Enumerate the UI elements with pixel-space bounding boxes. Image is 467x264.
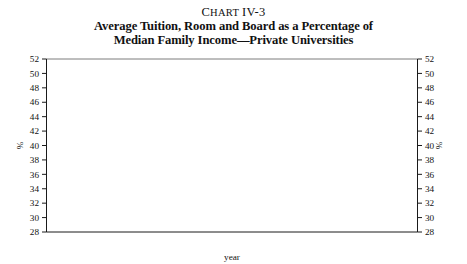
axis-titles: %%year (15, 141, 444, 262)
y-tick-label-right: 34 (425, 184, 435, 194)
y-tick-label-left: 48 (30, 83, 40, 93)
chart-plot-svg: 28303234363840424446485052 2830323436384… (0, 50, 467, 264)
y-tick-label-left: 40 (30, 141, 40, 151)
y-tick-label-right: 46 (425, 97, 435, 107)
chart-title-line-2: Median Family Income—Private Universitie… (0, 33, 467, 48)
y-tick-label-left: 28 (30, 227, 40, 237)
plot-area: 28303234363840424446485052 2830323436384… (0, 50, 467, 264)
y-tick-label-left: 44 (30, 112, 40, 122)
y-tick-label-right: 38 (425, 155, 435, 165)
chart-figure: CHART IV-3 Average Tuition, Room and Boa… (0, 0, 467, 264)
y-tick-label-right: 52 (425, 54, 435, 64)
y-tick-label-right: 36 (425, 170, 435, 180)
y-tick-label-right: 28 (425, 227, 435, 237)
y-tick-label-left: 42 (30, 126, 40, 136)
y-axis-title-right: % (434, 141, 444, 149)
y-tick-label-left: 34 (30, 184, 40, 194)
chart-title-line-1: Average Tuition, Room and Board as a Per… (0, 19, 467, 34)
y-tick-label-left: 46 (30, 97, 40, 107)
chart-number-lead: C (201, 5, 210, 19)
y-tick-label-right: 50 (425, 69, 435, 79)
y-tick-label-right: 30 (425, 213, 435, 223)
chart-number-word: HART (210, 7, 239, 18)
y-axis-right-ticks (418, 59, 423, 232)
y-axis-left-ticks (42, 59, 47, 232)
x-axis-title: year (224, 252, 240, 262)
y-tick-label-left: 36 (30, 170, 40, 180)
y-tick-label-left: 38 (30, 155, 40, 165)
y-tick-label-right: 32 (425, 198, 435, 208)
y-tick-label-right: 48 (425, 83, 435, 93)
y-axis-left-tick-labels: 28303234363840424446485052 (30, 54, 40, 237)
y-tick-label-left: 52 (30, 54, 40, 64)
y-tick-label-right: 42 (425, 126, 435, 136)
y-tick-label-right: 44 (425, 112, 435, 122)
y-tick-label-left: 32 (30, 198, 40, 208)
y-tick-label-left: 50 (30, 69, 40, 79)
chart-number-caption: CHART IV-3 (0, 5, 467, 20)
y-tick-label-left: 30 (30, 213, 40, 223)
chart-number-id: IV-3 (242, 5, 266, 19)
y-axis-title-left: % (15, 141, 25, 149)
